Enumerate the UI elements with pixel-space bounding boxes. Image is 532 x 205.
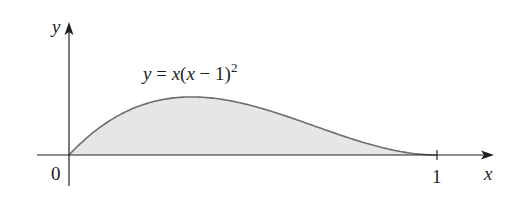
x-tick-label-1: 1 bbox=[432, 166, 442, 187]
y-axis-label: y bbox=[50, 16, 61, 37]
x-axis-label: x bbox=[483, 163, 493, 184]
area-under-curve-diagram: y x 0 1 y = x(x − 1)2 bbox=[0, 0, 532, 205]
equation-label: y = x(x − 1)2 bbox=[141, 60, 237, 85]
origin-label: 0 bbox=[51, 163, 61, 184]
